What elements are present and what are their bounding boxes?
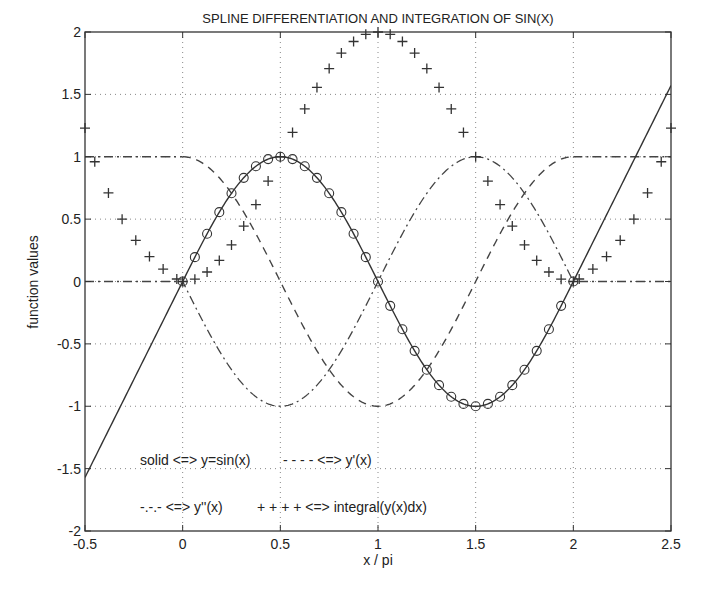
integral-marker-plus (361, 29, 371, 39)
y-tick-label: -1 (69, 398, 82, 414)
integral-marker-plus (446, 104, 456, 114)
x-tick-label: 0 (179, 536, 187, 552)
chart-title: SPLINE DIFFERENTIATION AND INTEGRATION O… (202, 11, 553, 26)
integral-marker-plus (615, 235, 625, 245)
integral-marker-plus (495, 200, 505, 210)
integral-marker-plus (312, 82, 322, 92)
integral-marker-plus (544, 267, 554, 277)
integral-marker-plus (422, 64, 432, 74)
integral-marker-plus (507, 221, 517, 231)
integral-marker-plus (103, 188, 113, 198)
integral-marker-plus (239, 221, 249, 231)
integral-marker-plus (251, 200, 261, 210)
legend-entry-integral: + + + + <=> integral(y(x)dx) (257, 499, 427, 515)
legend: solid <=> y=sin(x) - - - - <=> y'(x) -.-… (140, 452, 427, 515)
integral-marker-plus (336, 48, 346, 58)
integral-marker-plus (144, 252, 154, 262)
integral-marker-plus (263, 176, 273, 186)
chart: SPLINE DIFFERENTIATION AND INTEGRATION O… (0, 0, 714, 602)
y-tick-label: 2 (73, 24, 81, 40)
integral-marker-plus (300, 104, 310, 114)
legend-entry-sin: solid <=> y=sin(x) (140, 452, 251, 468)
integral-marker-plus (324, 64, 334, 74)
integral-marker-plus (410, 48, 420, 58)
y-tick-label: 0 (73, 274, 81, 290)
integral-marker-plus (397, 36, 407, 46)
integral-marker-plus (532, 255, 542, 265)
integral-marker-plus (158, 264, 168, 274)
x-tick-label: 2 (569, 536, 577, 552)
integral-marker-plus (471, 152, 481, 162)
integral-marker-plus (556, 274, 566, 284)
integral-marker-plus (385, 29, 395, 39)
x-axis: -0.500.511.522.5 (73, 32, 681, 552)
x-tick-label: 1.5 (466, 536, 486, 552)
integral-marker-plus (190, 274, 200, 284)
integral-marker-plus (172, 274, 182, 284)
integral-marker-plus (117, 214, 127, 224)
y-tick-label: 1 (73, 149, 81, 165)
integral-marker-plus (629, 214, 639, 224)
legend-entry-derivative: - - - - <=> y'(x) (283, 452, 372, 468)
integral-marker-plus (483, 176, 493, 186)
integral-marker-plus (90, 157, 100, 167)
x-tick-label: 0.5 (271, 536, 291, 552)
integral-marker-plus (227, 240, 237, 250)
integral-marker-plus (458, 127, 468, 137)
integral-marker-plus (131, 235, 141, 245)
y-axis-label: function values (25, 235, 41, 328)
y-tick-label: 0.5 (62, 211, 82, 227)
y-tick-label: -2 (69, 523, 82, 539)
y-tick-label: -1.5 (57, 461, 81, 477)
integral-marker-plus (602, 252, 612, 262)
x-tick-label: 1 (374, 536, 382, 552)
integral-marker-plus (588, 264, 598, 274)
integral-marker-plus (656, 157, 666, 167)
integral-marker-plus (214, 255, 224, 265)
integral-marker-plus (434, 82, 444, 92)
x-tick-label: 2.5 (661, 536, 681, 552)
y-tick-label: 1.5 (62, 86, 82, 102)
legend-entry-second-derivative: -.-.- <=> y''(x) (140, 499, 223, 515)
x-axis-label: x / pi (363, 552, 393, 568)
integral-marker-plus (643, 188, 653, 198)
integral-marker-plus (349, 36, 359, 46)
integral-marker-plus (288, 127, 298, 137)
y-tick-label: -0.5 (57, 336, 81, 352)
integral-marker-plus (202, 267, 212, 277)
integral-marker-plus (520, 240, 530, 250)
